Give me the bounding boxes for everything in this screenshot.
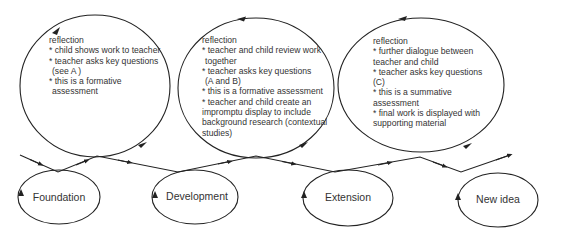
arrow-icon bbox=[237, 17, 246, 22]
spiral-diagram: reflection * child shows work to teacher… bbox=[0, 0, 565, 238]
reflection-text-1: reflection * child shows work to teacher… bbox=[49, 35, 160, 97]
arrow-icon bbox=[282, 162, 294, 165]
reflection-line: reflection bbox=[202, 35, 327, 45]
arrow-icon bbox=[118, 160, 130, 163]
reflection-line: impromptu display to include bbox=[202, 107, 327, 117]
stage-label-new-idea: New idea bbox=[476, 193, 520, 205]
reflection-line: assessment bbox=[373, 98, 482, 108]
stage-label-foundation: Foundation bbox=[33, 191, 86, 203]
reflection-line: teacher and child bbox=[373, 57, 482, 67]
arrow-icon bbox=[455, 193, 461, 200]
reflection-line: * teacher asks key questions bbox=[202, 66, 327, 76]
arrow-icon bbox=[52, 27, 60, 35]
reflection-text-3: reflection * further dialogue between te… bbox=[373, 36, 482, 129]
reflection-line: * teacher and child create an bbox=[202, 97, 327, 107]
arrow-icon bbox=[76, 161, 87, 166]
arrow-icon bbox=[30, 160, 41, 165]
reflection-text-2: reflection * teacher and child review wo… bbox=[202, 35, 327, 138]
arrow-icon bbox=[433, 162, 445, 167]
reflection-line: studies) bbox=[202, 128, 327, 138]
reflection-line: * child shows work to teacher bbox=[49, 45, 160, 55]
reflection-line: (A and B) bbox=[202, 76, 327, 86]
reflection-line: * further dialogue between bbox=[373, 46, 482, 56]
reflection-line: reflection bbox=[49, 35, 160, 45]
reflection-line: (see A ) bbox=[49, 66, 160, 76]
reflection-line: * this is a summative bbox=[373, 87, 482, 97]
reflection-line: * teacher asks key questions bbox=[373, 67, 482, 77]
arrow-icon bbox=[299, 142, 308, 148]
arrow-icon bbox=[463, 143, 472, 149]
arrow-icon bbox=[301, 191, 307, 198]
stage-label-extension: Extension bbox=[325, 191, 371, 203]
reflection-line: reflection bbox=[373, 36, 482, 46]
reflection-line: * teacher asks key questions bbox=[49, 56, 160, 66]
reflection-line: * this is a formative assessment bbox=[202, 86, 327, 96]
reflection-line: background research (contextual bbox=[202, 117, 327, 127]
arrow-icon bbox=[496, 155, 510, 160]
reflection-line: together bbox=[202, 56, 327, 66]
reflection-line: * this is a formative bbox=[49, 76, 160, 86]
arrow-icon bbox=[218, 162, 230, 165]
stage-label-development: Development bbox=[166, 190, 228, 202]
reflection-line: supporting material bbox=[373, 118, 482, 128]
reflection-line: assessment bbox=[49, 86, 160, 96]
reflection-line: (C) bbox=[373, 77, 482, 87]
reflection-line: * final work is displayed with bbox=[373, 108, 482, 118]
reflection-line: * teacher and child review work bbox=[202, 45, 327, 55]
